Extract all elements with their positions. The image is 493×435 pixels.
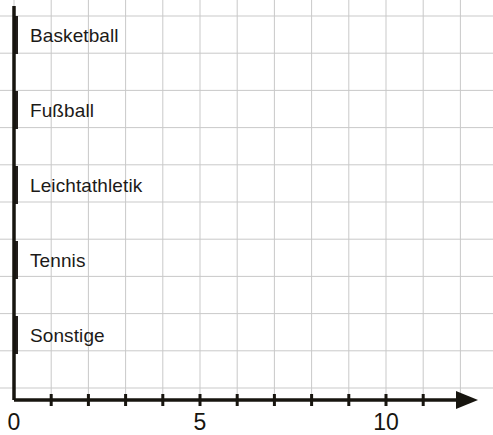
- bar-label: Leichtathletik: [30, 176, 142, 195]
- x-axis-tick-label: 10: [373, 411, 399, 434]
- bar-sonstige[interactable]: Sonstige: [14, 316, 423, 354]
- bar-leichtathletik[interactable]: Leichtathletik: [14, 166, 312, 204]
- bar-label: Sonstige: [30, 326, 105, 345]
- bar-label: Tennis: [30, 251, 86, 270]
- bar-rect: [14, 91, 18, 129]
- bar-rect: [14, 166, 18, 204]
- plot-area: BasketballFußballLeichtathletikTennisSon…: [0, 0, 493, 435]
- bar-chart: BasketballFußballLeichtathletikTennisSon…: [0, 0, 493, 435]
- bar-label: Fußball: [30, 101, 94, 120]
- bar-basketball[interactable]: Basketball: [14, 16, 349, 54]
- bar-rect: [14, 316, 18, 354]
- bar-fu-ball[interactable]: Fußball: [14, 91, 460, 129]
- bar-rect: [14, 241, 18, 279]
- bar-rect: [14, 16, 18, 54]
- bar-tennis[interactable]: Tennis: [14, 241, 163, 279]
- x-axis-tick-label: 0: [8, 411, 21, 434]
- bar-label: Basketball: [30, 26, 119, 45]
- x-axis-tick-label: 5: [194, 411, 207, 434]
